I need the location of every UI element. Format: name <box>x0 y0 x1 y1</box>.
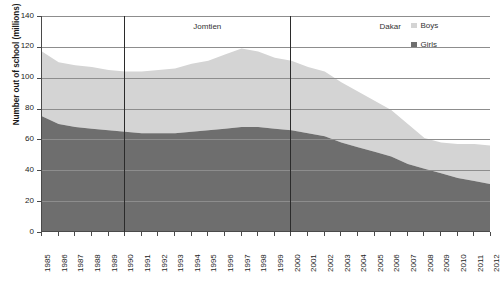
x-tick-1993 <box>174 232 175 236</box>
x-tick-1987 <box>74 232 75 236</box>
x-tick-2005 <box>374 232 375 236</box>
x-tick-2010 <box>457 232 458 236</box>
x-tick-label-2001: 2001 <box>310 254 318 272</box>
x-tick-label-1995: 1995 <box>210 254 218 272</box>
y-tick-label-140: 140 <box>21 11 34 21</box>
chart-legend: Boys Girls <box>411 19 438 57</box>
x-tick-label-2011: 2011 <box>477 255 485 272</box>
x-tick-2012 <box>490 232 491 236</box>
x-tick-label-1985: 1985 <box>44 254 52 272</box>
x-tick-2007 <box>407 232 408 236</box>
x-tick-label-2003: 2003 <box>344 254 352 272</box>
x-tick-2004 <box>357 232 358 236</box>
x-tick-label-1988: 1988 <box>94 254 102 272</box>
x-tick-label-1991: 1991 <box>144 254 152 272</box>
x-tick-label-2000: 2000 <box>294 254 302 272</box>
x-tick-1986 <box>58 232 59 236</box>
x-tick-label-1992: 1992 <box>161 254 169 272</box>
x-tick-label-2004: 2004 <box>360 254 368 272</box>
x-tick-label-1987: 1987 <box>77 254 85 272</box>
y-tick-label-60: 60 <box>25 134 34 144</box>
x-tick-label-1996: 1996 <box>227 254 235 272</box>
x-tick-1998 <box>257 232 258 236</box>
y-axis-ticks: 020406080100120140 <box>0 16 41 232</box>
x-tick-1991 <box>141 232 142 236</box>
x-tick-label-1997: 1997 <box>244 254 252 272</box>
x-tick-1989 <box>108 232 109 236</box>
y-tick-label-80: 80 <box>25 103 34 113</box>
x-tick-label-1989: 1989 <box>111 254 119 272</box>
x-tick-1988 <box>91 232 92 236</box>
y-tick-label-40: 40 <box>25 165 34 175</box>
legend-swatch-boys <box>411 23 417 29</box>
x-tick-label-1998: 1998 <box>260 254 268 272</box>
gridline-80 <box>42 109 490 110</box>
legend-swatch-girls <box>411 42 417 48</box>
y-tick-label-20: 20 <box>25 196 34 206</box>
area-girls <box>42 116 490 232</box>
y-tick-label-0: 0 <box>30 227 34 237</box>
divider-jomtien <box>124 16 125 232</box>
era-label-jomtien: Jomtien <box>124 22 290 31</box>
legend-label-girls: Girls <box>421 40 437 49</box>
x-tick-label-1993: 1993 <box>177 254 185 272</box>
x-tick-1996 <box>224 232 225 236</box>
y-tick-label-100: 100 <box>21 72 34 82</box>
divider-dakar <box>290 16 291 232</box>
y-tick-label-120: 120 <box>21 41 34 51</box>
x-tick-label-1994: 1994 <box>194 254 202 272</box>
x-tick-2008 <box>423 232 424 236</box>
x-tick-label-2005: 2005 <box>377 254 385 272</box>
x-tick-2011 <box>473 232 474 236</box>
gridline-60 <box>42 139 490 140</box>
x-tick-label-1990: 1990 <box>127 254 135 272</box>
legend-item-girls: Girls <box>411 38 438 51</box>
gridline-100 <box>42 78 490 79</box>
legend-item-boys: Boys <box>411 19 438 32</box>
x-tick-2006 <box>390 232 391 236</box>
legend-label-boys: Boys <box>421 21 439 30</box>
x-tick-2000 <box>290 232 291 236</box>
x-tick-label-2009: 2009 <box>443 254 451 272</box>
x-tick-label-2006: 2006 <box>393 254 401 272</box>
x-tick-2001 <box>307 232 308 236</box>
x-tick-2002 <box>324 232 325 236</box>
x-tick-1992 <box>157 232 158 236</box>
x-tick-2003 <box>340 232 341 236</box>
x-tick-label-2002: 2002 <box>327 254 335 272</box>
x-tick-1994 <box>191 232 192 236</box>
x-tick-1999 <box>274 232 275 236</box>
x-tick-1990 <box>124 232 125 236</box>
x-tick-label-1986: 1986 <box>61 254 69 272</box>
x-tick-label-2007: 2007 <box>410 254 418 272</box>
x-tick-1985 <box>41 232 42 236</box>
x-tick-label-2008: 2008 <box>427 254 435 272</box>
x-tick-1997 <box>241 232 242 236</box>
x-tick-2009 <box>440 232 441 236</box>
era-label-dakar: Dakar <box>290 22 490 31</box>
x-tick-1995 <box>207 232 208 236</box>
gridline-20 <box>42 201 490 202</box>
x-axis: 1985198619871988198919901991199219931994… <box>41 232 490 282</box>
x-tick-label-2010: 2010 <box>460 254 468 272</box>
x-tick-label-1999: 1999 <box>277 254 285 272</box>
x-tick-label-2012: 2012 <box>493 254 501 272</box>
gridline-140 <box>42 16 490 17</box>
gridline-40 <box>42 170 490 171</box>
